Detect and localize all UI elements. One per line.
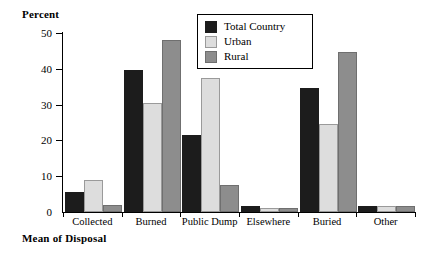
x-axis-tick [298,212,299,217]
x-axis-category-label: Burned [136,216,167,227]
legend-swatch-rural [205,51,217,63]
y-axis-tick-label: 30 [24,99,52,111]
bar [143,103,162,212]
y-axis-tick-label: 20 [24,134,52,146]
bar [319,124,338,212]
y-axis-tick-label: 50 [24,27,52,39]
legend: Total Country Urban Rural [197,14,313,69]
legend-label-total-country: Total Country [224,21,285,32]
bar [162,40,181,212]
bar [396,206,415,212]
bar [377,206,396,212]
bar [338,52,357,212]
y-axis-tick-label: 0 [24,206,52,218]
bar [124,70,143,212]
bar [65,192,84,212]
y-axis-tick-label: 40 [24,63,52,75]
bar [182,135,201,212]
legend-item: Rural [198,49,312,64]
bar [358,206,377,212]
y-axis-tick [56,105,63,106]
x-axis-tick [415,212,416,217]
bar [279,208,298,212]
bar [201,78,220,212]
x-axis-tick [122,212,123,217]
bar-group [358,33,413,212]
x-axis-tick [63,212,64,217]
y-axis-tick [56,140,63,141]
bar [300,88,319,212]
bar [103,205,122,212]
x-axis-category-label: Collected [72,216,112,227]
x-axis-tick [239,212,240,217]
x-axis-category-label: Buried [313,216,342,227]
legend-item: Total Country [198,19,312,34]
bar-chart: Percent 01020304050 CollectedBurnedPubli… [0,0,423,265]
legend-item: Urban [198,34,312,49]
legend-swatch-urban [205,36,217,48]
y-axis-tick [56,69,63,70]
legend-swatch-total-country [205,21,217,33]
bar [84,180,103,212]
x-axis-category-label: Other [374,216,398,227]
bar [241,206,260,212]
x-axis-category-label: Elsewhere [246,216,290,227]
x-axis-title: Mean of Disposal [22,232,106,244]
y-axis-title: Percent [22,8,59,20]
y-axis-tick-label: 10 [24,170,52,182]
x-axis-category-label: Public Dump [182,216,238,227]
legend-label-rural: Rural [224,51,248,62]
y-axis-tick [56,33,63,34]
bar-group [124,33,179,212]
bar-group [65,33,120,212]
legend-label-urban: Urban [224,36,252,47]
x-axis-tick [356,212,357,217]
bar [260,208,279,212]
bar [220,185,239,212]
y-axis-tick [56,176,63,177]
